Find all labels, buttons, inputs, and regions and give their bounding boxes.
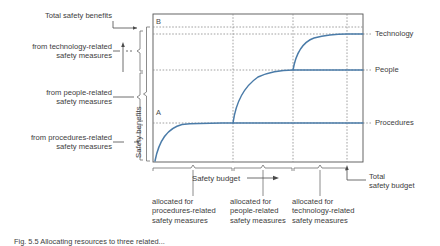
annotation-budget-technology: allocated for technology-related safety … — [292, 197, 376, 225]
bracket-technology-benefits — [137, 31, 143, 71]
arrowhead-total-benefits — [133, 26, 137, 30]
x-axis-title: Safety budget — [192, 174, 240, 183]
bracket-total-benefits — [144, 27, 151, 161]
curve-procedures — [155, 123, 363, 161]
arrowhead-technology-up — [121, 42, 125, 47]
annotation-total-safety-budget: Total safety budget — [369, 172, 439, 191]
annotation-people-benefits: from people-related safety measures — [4, 88, 112, 107]
bracket-budget-procedures — [153, 165, 232, 171]
y-axis-title: Safety benefits — [134, 106, 143, 158]
curve-label-procedures: Procedures — [375, 118, 437, 127]
arrowhead-total-budget — [345, 165, 348, 170]
annotation-technology-benefits: from technology-related safety measures — [4, 42, 112, 61]
plot-frame — [153, 14, 363, 162]
arrowhead-safety-budget — [273, 176, 279, 180]
point-label-a: A — [156, 108, 161, 117]
annotation-budget-procedures: allocated for procedures-related safety … — [152, 197, 226, 225]
curve-technology — [293, 34, 363, 70]
annotation-total-safety-benefits: Total safety benefits — [18, 11, 112, 20]
point-label-b: B — [156, 17, 161, 26]
curve-people — [233, 70, 363, 123]
figure-caption: Fig. 5.5 Allocating resources to three r… — [14, 237, 165, 246]
annotation-procedures-benefits: from procedures-related safety measures — [2, 133, 112, 152]
curve-label-people: People — [375, 65, 437, 74]
curve-label-technology: Technology — [375, 29, 437, 38]
